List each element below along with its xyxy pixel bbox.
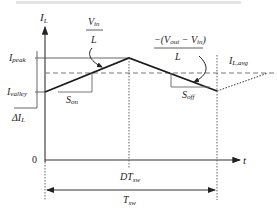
period-arrow: Tsw <box>47 190 215 207</box>
duty-time-label: DTsw <box>119 171 141 184</box>
x-axis-label: t <box>243 154 247 166</box>
svg-text:IL,avg: IL,avg <box>228 55 249 67</box>
valley-level: Ivalley <box>6 86 45 98</box>
svg-text:Soff: Soff <box>182 89 195 101</box>
svg-text:ΔIL: ΔIL <box>11 112 25 124</box>
y-axis: IL <box>39 11 48 162</box>
x-axis: t 0 <box>32 154 247 166</box>
slope-off-formula: −(Vout − Vin) L <box>154 34 206 82</box>
svg-text:Vin: Vin <box>88 16 100 28</box>
inductor-current-diagram: IL t 0 Ipeak Ivalley ΔIL IL,avg Son Vin <box>0 0 277 211</box>
svg-text:Son: Son <box>66 94 79 106</box>
slope-off-marker: Soff <box>171 73 210 101</box>
period-label: Tsw <box>123 194 136 207</box>
peak-level: Ipeak <box>8 52 129 64</box>
svg-text:−(Vout − Vin): −(Vout − Vin) <box>154 34 206 46</box>
y-axis-label: IL <box>39 11 48 25</box>
slope-on-formula: Vin L <box>86 16 103 67</box>
svg-text:Ipeak: Ipeak <box>8 52 26 64</box>
svg-text:L: L <box>174 51 181 62</box>
origin-label: 0 <box>32 154 37 165</box>
svg-text:Ivalley: Ivalley <box>6 86 28 98</box>
svg-text:L: L <box>90 34 97 45</box>
slope-on-marker: Son <box>58 73 92 106</box>
